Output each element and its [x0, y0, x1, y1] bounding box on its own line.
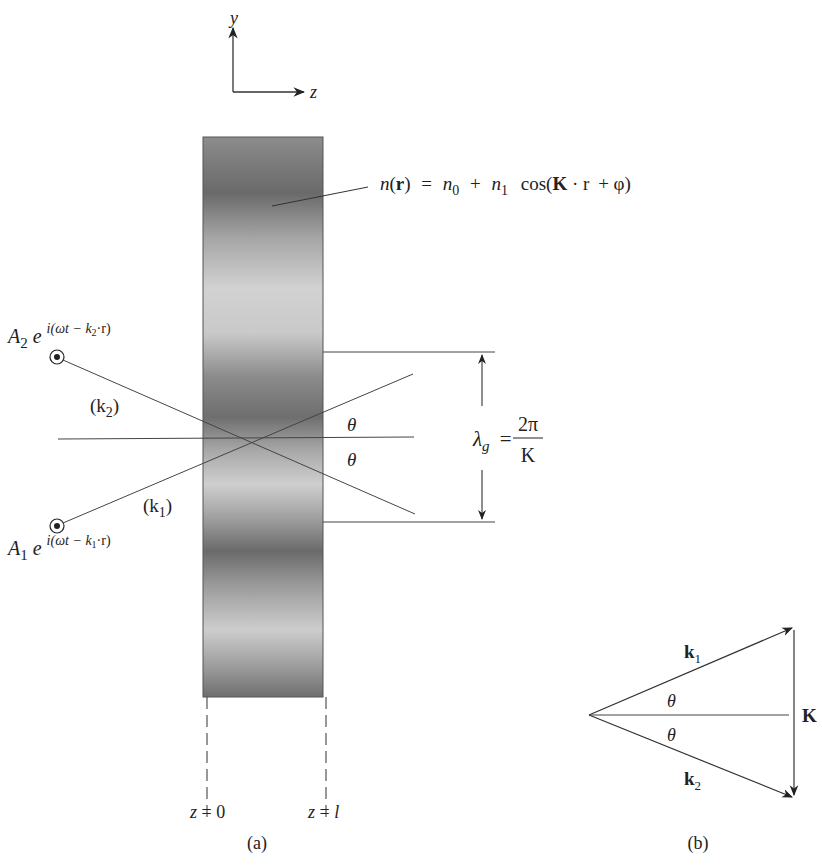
grating-period-numerator: 2π — [518, 413, 538, 435]
boundary-label-zl: z = l — [307, 802, 339, 822]
vector-theta-upper: θ — [667, 691, 676, 711]
caption-b: (b) — [688, 833, 709, 854]
boundary-label-z0: z = 0 — [189, 802, 225, 822]
grating-period-lhs: λg = — [472, 427, 512, 456]
wave1-source-dot-icon — [54, 523, 60, 529]
theta-upper-label: θ — [347, 414, 356, 435]
vector-theta-lower: θ — [667, 725, 676, 745]
k1-label: k1 — [684, 641, 701, 666]
coordinate-axes: y z — [228, 8, 317, 102]
caption-a: (a) — [247, 833, 267, 854]
diagram-canvas: y z n(r) = n0 + n1 cos(K · r + φ) A2 e i… — [0, 0, 822, 868]
grating-period-denominator: K — [521, 444, 536, 466]
vector-diagram: k1 k2 K θ θ — [589, 628, 817, 797]
wave1-label: (k1) — [143, 495, 172, 520]
index-modulated-medium — [203, 137, 323, 697]
wave2-expression: A2 e i(ωt − k2·r) — [6, 321, 111, 352]
wave2-label: (k2) — [90, 395, 119, 420]
z-axis-label: z — [309, 82, 317, 102]
y-axis-label: y — [228, 8, 238, 28]
index-formula: n(r) = n0 + n1 cos(K · r + φ) — [272, 173, 631, 206]
svg-text:n(r) = n0 +: n(r) = n0 + n1 cos(K · r + φ) — [380, 173, 631, 199]
k2-label: k2 — [684, 768, 701, 793]
wave2-source-dot-icon — [54, 354, 60, 360]
wave1-expression: A1 e i(ωt − k1·r) — [6, 533, 111, 564]
theta-lower-label: θ — [347, 449, 356, 470]
grating-slab — [203, 137, 326, 818]
K-label: K — [802, 705, 817, 726]
